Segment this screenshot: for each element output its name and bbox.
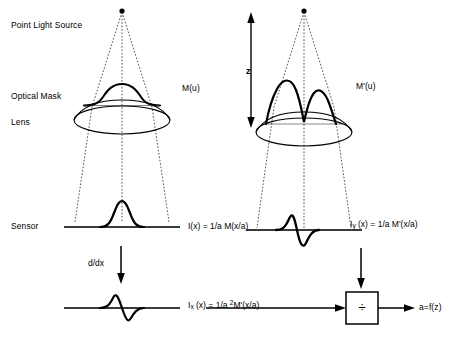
equation-left-sensor: I(x) = 1/a M(x/a)	[188, 222, 248, 231]
lens-ellipse-left	[74, 106, 170, 134]
left-ray-outer-right	[122, 12, 169, 222]
label-optical-mask: Optical Mask	[11, 92, 61, 101]
equation-left-derivative-rhs-pre: 1/a	[216, 300, 230, 310]
equation-left-derivative-rhs-post: M'(x/a)	[234, 300, 260, 310]
equation-left-derivative-equals: =	[208, 300, 213, 310]
diagram-canvas: Point Light Source Optical Mask Lens Sen…	[0, 0, 464, 340]
derivative-arrow-head	[117, 273, 125, 284]
label-point-light-source: Point Light Source	[11, 21, 82, 30]
label-sensor: Sensor	[11, 222, 39, 231]
equation-right-sensor-tail: (x)	[356, 219, 368, 229]
point-light-source-dot-right	[301, 8, 306, 13]
point-light-source-dot-left	[119, 8, 124, 13]
division-operator-symbol: ÷	[346, 301, 378, 314]
divide-input-arrow-right-head	[357, 278, 365, 289]
output-arrow-head	[404, 304, 415, 312]
label-derivative-operator: d/dx	[88, 258, 104, 268]
divide-input-arrow-left-head	[335, 304, 346, 312]
z-measure-arrow-top	[247, 12, 254, 23]
label-mask-function-left: M(u)	[182, 84, 200, 93]
label-mask-function-right: M'(u)	[356, 82, 376, 91]
equation-left-derivative-tail: (x)	[194, 300, 206, 310]
equation-right-sensor: Iy (x) = 1/a M'(x/a)	[350, 220, 418, 230]
equation-right-sensor-rhs: 1/a M'(x/a)	[378, 219, 418, 229]
label-output-a-of-z: a=f(z)	[419, 303, 442, 312]
equation-left-derivative: Ix (x) = 1/a 2M'(x/a)	[188, 300, 259, 311]
label-lens: Lens	[11, 118, 30, 127]
diagram-vector-layer	[0, 0, 464, 340]
label-distance-z: z	[246, 66, 251, 76]
equation-right-sensor-equals: =	[370, 219, 375, 229]
left-ray-outer-left	[75, 12, 122, 222]
z-measure-arrow-bottom	[247, 117, 254, 128]
